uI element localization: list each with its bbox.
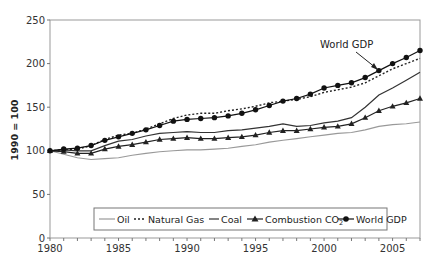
series-group: [47, 48, 423, 160]
y-tick-label: 0: [39, 233, 45, 244]
y-tick-label: 50: [32, 189, 45, 200]
legend-world-gdp: World GDP: [356, 214, 407, 225]
y-tick-label: 200: [26, 58, 45, 69]
y-tick-label: 100: [26, 145, 45, 156]
legend-oil: Oil: [117, 214, 130, 225]
plot-frame: [50, 20, 420, 238]
x-tick-label: 1995: [243, 243, 268, 254]
x-tick-label: 1980: [37, 243, 62, 254]
arrowhead-icon: [371, 63, 378, 70]
x-tick-label: 2000: [311, 243, 336, 254]
line-chart: 050100150200250 198019851990199520002005…: [0, 0, 433, 270]
series-world-gdp: [50, 51, 420, 151]
y-axis: 050100150200250: [26, 15, 50, 244]
legend-natural-gas: Natural Gas: [148, 214, 204, 225]
annotation-label: World GDP: [320, 39, 373, 50]
annotation-world-gdp: World GDP: [320, 39, 378, 70]
legend-coal: Coal: [221, 214, 242, 225]
x-tick-label: 1985: [106, 243, 131, 254]
legend: Oil Natural Gas Coal Combustion CO2 Worl…: [94, 208, 407, 230]
x-axis: 198019851990199520002005: [37, 238, 420, 254]
circle-marker-icon: [343, 216, 349, 222]
y-axis-label: 1990 = 100: [9, 99, 20, 160]
y-tick-label: 150: [26, 102, 45, 113]
y-tick-label: 250: [26, 15, 45, 26]
x-tick-label: 2005: [380, 243, 405, 254]
x-tick-label: 1990: [174, 243, 199, 254]
